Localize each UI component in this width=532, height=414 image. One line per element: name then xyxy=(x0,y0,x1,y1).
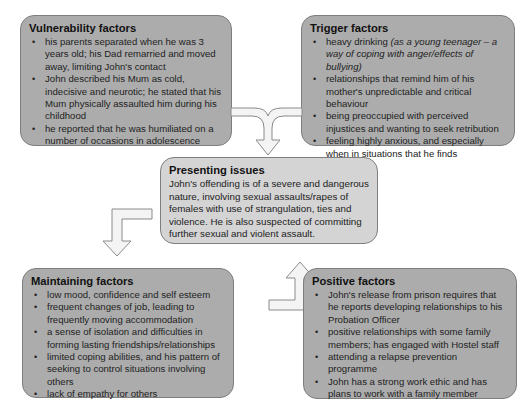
list-item: he reported that he was humiliated on a … xyxy=(45,123,223,148)
list-item: his parents separated when he was 3 year… xyxy=(45,36,223,73)
presenting-issues-box: Presenting issues John's offending is of… xyxy=(160,157,378,244)
trigger-factors-box: Trigger factors heavy drinking (as a you… xyxy=(301,15,515,146)
merge-down-arrow-icon xyxy=(230,100,304,158)
maintaining-factors-box: Maintaining factors low mood, confidence… xyxy=(22,268,234,398)
positive-factors-list: John's release from prison requires that… xyxy=(312,289,508,401)
presenting-issues-text: John's offending is of a severe and dang… xyxy=(169,178,369,241)
vulnerability-factors-box: Vulnerability factors his parents separa… xyxy=(20,15,232,146)
list-item-text: heavy drinking xyxy=(326,36,391,47)
list-item: John's release from prison requires that… xyxy=(328,289,508,326)
maintaining-factors-list: low mood, confidence and self esteem fre… xyxy=(31,289,225,401)
elbow-down-arrow-icon xyxy=(100,208,154,258)
list-item: heavy drinking (as a young teenager – a … xyxy=(326,36,506,73)
maintaining-factors-title: Maintaining factors xyxy=(31,275,225,287)
positive-factors-box: Positive factors John's release from pri… xyxy=(303,268,517,399)
list-item: positive relationships with some family … xyxy=(328,326,508,351)
list-item: being preoccupied with perceived injusti… xyxy=(326,110,506,135)
list-item: frequent changes of job, leading to freq… xyxy=(47,301,225,326)
trigger-factors-list: heavy drinking (as a young teenager – a … xyxy=(310,36,506,172)
list-item: John has a strong work ethic and has pla… xyxy=(328,376,508,401)
positive-factors-title: Positive factors xyxy=(312,275,508,287)
list-item: lack of empathy for others xyxy=(47,388,225,400)
list-item: relationships that remind him of his mot… xyxy=(326,73,506,110)
presenting-issues-title: Presenting issues xyxy=(169,164,369,176)
list-item: a sense of isolation and difficulties in… xyxy=(47,326,225,351)
list-item: limited coping abilities, and his patter… xyxy=(47,351,225,388)
trigger-factors-title: Trigger factors xyxy=(310,22,506,34)
list-item: John described his Mum as cold, indecisi… xyxy=(45,73,223,123)
list-item: low mood, confidence and self esteem xyxy=(47,289,225,301)
vulnerability-factors-list: his parents separated when he was 3 year… xyxy=(29,36,223,148)
vulnerability-factors-title: Vulnerability factors xyxy=(29,22,223,34)
list-item: attending a relapse prevention programme xyxy=(328,351,508,376)
